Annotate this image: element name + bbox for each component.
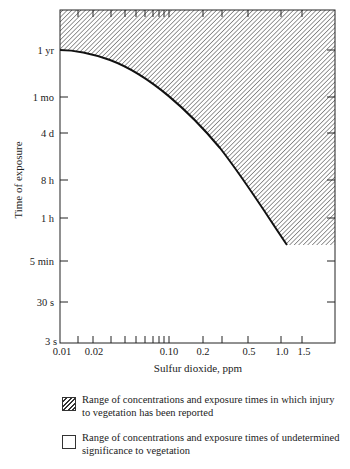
legend-item-undetermined: Range of concentrations and exposure tim… xyxy=(62,431,342,457)
svg-text:0.5: 0.5 xyxy=(242,346,255,357)
svg-text:4 d: 4 d xyxy=(41,128,55,139)
svg-text:1.5: 1.5 xyxy=(297,346,310,357)
svg-text:0.02: 0.02 xyxy=(85,346,103,357)
legend-label: Range of concentrations and exposure tim… xyxy=(82,431,342,457)
x-axis-title: Sulfur dioxide, ppm xyxy=(154,362,243,374)
hatched-swatch-icon xyxy=(62,397,76,411)
y-axis-title: Time of exposure xyxy=(12,141,24,218)
legend-item-injury: Range of concentrations and exposure tim… xyxy=(62,393,342,419)
svg-text:5 min: 5 min xyxy=(30,256,55,267)
blank-swatch-icon xyxy=(62,435,76,449)
svg-text:1 h: 1 h xyxy=(41,213,55,224)
svg-text:1 yr: 1 yr xyxy=(37,45,54,56)
svg-text:0.01: 0.01 xyxy=(53,346,71,357)
svg-text:1.0: 1.0 xyxy=(275,346,288,357)
svg-text:30 s: 30 s xyxy=(37,297,54,308)
legend: Range of concentrations and exposure tim… xyxy=(62,393,342,469)
legend-label: Range of concentrations and exposure tim… xyxy=(82,393,342,419)
x-tick-labels: 0.01 0.02 0.10 0.2 0.5 1.0 1.5 xyxy=(53,346,311,357)
svg-text:0.10: 0.10 xyxy=(160,346,178,357)
svg-text:0.2: 0.2 xyxy=(196,346,209,357)
injury-region xyxy=(60,10,335,245)
svg-text:1 mo: 1 mo xyxy=(33,92,54,103)
y-tick-labels: 1 yr 1 mo 4 d 8 h 1 h 5 min 30 s 3 s xyxy=(30,45,57,347)
svg-text:8 h: 8 h xyxy=(41,175,55,186)
